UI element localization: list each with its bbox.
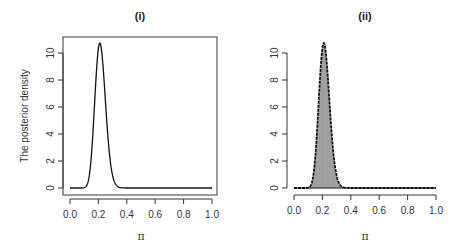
x-tick-label: 0.0: [287, 205, 301, 216]
y-tick-label: 4: [269, 131, 280, 137]
x-axis-title: π: [361, 230, 368, 243]
panel-i: (i) 0246810 0.00.20.40.60.81.0 The poste…: [19, 10, 219, 243]
y-tick-label: 2: [269, 158, 280, 164]
y-tick-label: 8: [269, 77, 280, 83]
y-tick-label: 8: [45, 77, 56, 83]
figure: (i) 0246810 0.00.20.40.60.81.0 The poste…: [0, 0, 459, 249]
x-tick-label: 0.4: [344, 205, 358, 216]
x-tick-label: 0.8: [177, 209, 191, 220]
density-curve: [294, 43, 436, 188]
y-tick-label: 10: [45, 47, 56, 59]
y-axis-title: The posterior density: [19, 69, 30, 162]
x-tick-label: 0.0: [63, 209, 77, 220]
y-tick-label: 6: [45, 104, 56, 110]
plot-box: [63, 37, 217, 195]
panel-i-title: (i): [135, 10, 146, 22]
y-axis: 0246810: [45, 47, 63, 191]
x-tick-label: 0.2: [315, 205, 329, 216]
x-axis-title: π: [137, 230, 144, 243]
y-tick-label: 10: [269, 47, 280, 59]
y-tick-label: 0: [269, 185, 280, 191]
x-axis: 0.00.20.40.60.81.0: [63, 199, 219, 220]
x-tick-label: 0.6: [372, 205, 386, 216]
x-tick-label: 0.8: [401, 205, 415, 216]
x-tick-label: 0.4: [120, 209, 134, 220]
density-curve: [70, 43, 212, 188]
x-tick-label: 1.0: [205, 209, 219, 220]
y-tick-label: 4: [45, 131, 56, 137]
y-tick-label: 2: [45, 158, 56, 164]
y-tick-label: 0: [45, 185, 56, 191]
x-tick-label: 1.0: [429, 205, 443, 216]
panel-ii: (ii) 0246810 0.00.20.40.60.81.0 π: [269, 10, 443, 243]
panel-ii-title: (ii): [358, 10, 372, 22]
y-tick-label: 6: [269, 104, 280, 110]
x-axis: 0.00.20.40.60.81.0: [287, 195, 443, 216]
y-axis: 0246810: [269, 47, 287, 191]
x-tick-label: 0.2: [91, 209, 105, 220]
x-tick-label: 0.6: [148, 209, 162, 220]
